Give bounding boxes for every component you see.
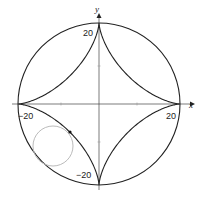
rolling-circle <box>33 126 73 166</box>
tracing-point <box>68 130 71 133</box>
x-axis-label: x <box>188 100 193 110</box>
tick-label-y-pos: 20 <box>83 28 93 38</box>
tick-label-x-pos: 20 <box>166 111 176 121</box>
tick-label-x-neg: −20 <box>18 111 33 121</box>
y-axis-label: y <box>94 4 99 14</box>
tick-label-y-neg: −20 <box>76 170 91 180</box>
astroid-diagram: y x 20 −20 −20 20 <box>0 0 204 197</box>
